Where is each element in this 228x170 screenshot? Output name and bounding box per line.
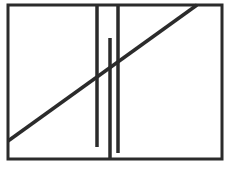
diagonal-line	[8, 5, 197, 141]
illusion-diagram	[0, 0, 228, 170]
outer-frame	[8, 5, 222, 159]
diagram-figure	[0, 0, 228, 170]
